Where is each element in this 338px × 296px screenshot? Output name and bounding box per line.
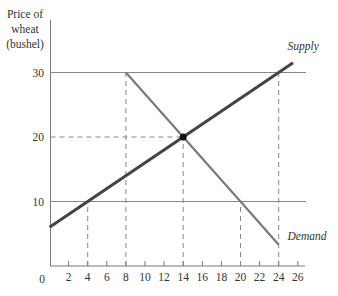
y-tick-label: 30	[33, 67, 45, 79]
x-tick-label: 6	[104, 271, 110, 283]
supply-demand-chart: Price ofwheat(bushel) 024681012141618202…	[0, 0, 338, 296]
y-axis-label-line: Price of	[7, 8, 43, 20]
y-axis-label: Price ofwheat(bushel)	[6, 8, 44, 51]
x-tick-label: 22	[254, 271, 266, 283]
equilibrium-point	[180, 134, 187, 141]
tick-labels: 02468101214161820222426102030	[33, 67, 304, 286]
y-axis-label-line: wheat	[11, 23, 39, 35]
supply-curve	[50, 63, 294, 227]
x-tick-label: 10	[139, 271, 151, 283]
axes	[51, 20, 306, 266]
x-tick-label: 8	[123, 271, 129, 283]
x-tick-label: 2	[66, 271, 72, 283]
y-tick-label: 10	[33, 196, 45, 208]
x-tick-label: 18	[216, 271, 228, 283]
x-tick-label: 12	[158, 271, 170, 283]
reference-lines	[51, 73, 307, 267]
x-tick-label: 4	[85, 271, 91, 283]
supply-label: Supply	[287, 40, 319, 53]
x-tick-label: 16	[197, 271, 209, 283]
y-axis-label-line: (bushel)	[6, 38, 44, 51]
demand-label: Demand	[286, 230, 326, 242]
x-tick-label: 24	[273, 271, 285, 283]
y-tick-label: 20	[33, 131, 45, 143]
series-lines	[50, 63, 294, 245]
origin-label: 0	[39, 273, 45, 285]
x-tick-label: 20	[235, 271, 247, 283]
annotations: SupplyDemand	[180, 40, 327, 242]
x-tick-label: 26	[292, 271, 304, 283]
x-tick-label: 14	[177, 271, 189, 283]
